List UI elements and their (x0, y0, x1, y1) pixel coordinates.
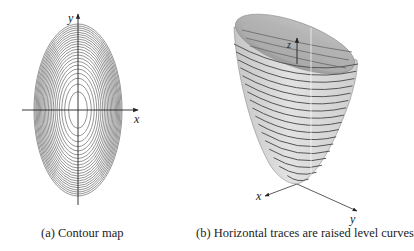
x-axis-3d (265, 184, 297, 196)
caption-a: (a) Contour map (41, 226, 124, 241)
y-axis-3d-label: y (349, 212, 356, 226)
y-axis-label: y (67, 11, 74, 25)
y-axis-3d (297, 184, 357, 211)
contour-map-panel: x y (22, 11, 140, 205)
z-axis-label: z (286, 39, 291, 50)
x-axis-label: x (133, 112, 140, 126)
caption-b: (b) Horizontal traces are raised level c… (196, 226, 414, 241)
paraboloid-panel: z x y (228, 2, 361, 226)
x-axis-3d-label: x (255, 189, 262, 203)
